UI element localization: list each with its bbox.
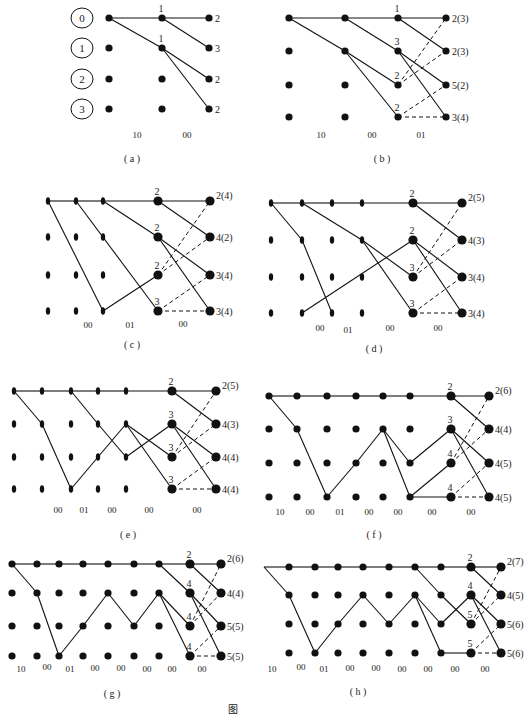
- path-metric: 2: [155, 260, 160, 271]
- received-bits: 00: [424, 664, 434, 674]
- survivor-branch: [134, 593, 159, 626]
- state-node: [330, 236, 334, 244]
- state-node: [484, 391, 493, 400]
- panel-caption: ( d ): [366, 343, 383, 355]
- path-metric: 2: [410, 225, 415, 236]
- state-node: [300, 273, 304, 281]
- received-bits: 00: [183, 130, 193, 140]
- state-node: [446, 458, 455, 467]
- candidate-branch: [158, 201, 210, 275]
- state-node: [124, 387, 128, 395]
- state-node: [153, 306, 162, 315]
- survivor-branch: [71, 391, 98, 424]
- state-node: [205, 44, 212, 51]
- state-node: [205, 14, 212, 21]
- state-node: [158, 44, 165, 51]
- state-node: [105, 105, 112, 112]
- state-node: [130, 560, 137, 567]
- state-node: [79, 589, 86, 596]
- end-metric-label: 2(5): [222, 380, 239, 392]
- end-metric-label: 4(2): [216, 232, 233, 244]
- trellis-figure: 01231123221000( a )13222(3)2(3)5(2)3(4)1…: [0, 0, 528, 716]
- path-metric: 2: [169, 376, 174, 387]
- state-node: [437, 649, 444, 656]
- survivor-branch: [172, 424, 216, 489]
- end-metric-label: 2: [215, 13, 220, 24]
- panel-c: 22232(4)4(2)3(4)3(4)000100( c ): [46, 186, 233, 351]
- state-node: [155, 622, 162, 629]
- state-node: [153, 196, 162, 205]
- state-node: [406, 425, 413, 432]
- state-node: [104, 622, 111, 629]
- state-node: [205, 196, 214, 205]
- path-metric: 4: [448, 448, 453, 459]
- state-node: [394, 47, 401, 54]
- candidate-branch: [190, 626, 221, 656]
- state-node: [394, 14, 401, 21]
- panel-caption: ( h ): [350, 686, 367, 698]
- survivor-branch: [103, 201, 158, 237]
- state-node: [300, 199, 304, 207]
- survivor-branch: [12, 564, 37, 593]
- state-node: [385, 620, 392, 627]
- state-node: [359, 649, 366, 656]
- survivor-branch: [126, 424, 172, 489]
- survivor-branch: [363, 595, 389, 624]
- state-node: [55, 622, 62, 629]
- state-node: [394, 81, 401, 88]
- received-bits: 01: [336, 507, 345, 517]
- state-node: [153, 232, 162, 241]
- state-node: [55, 652, 62, 659]
- survivor-branch: [345, 18, 398, 51]
- survivor-branch: [345, 51, 398, 117]
- state-node: [185, 588, 194, 597]
- state-node: [466, 648, 475, 657]
- panel-caption: ( b ): [374, 153, 391, 165]
- received-bits: 00: [43, 662, 53, 672]
- path-metric: 2: [395, 102, 400, 113]
- panel-caption: ( g ): [104, 688, 121, 700]
- state-node: [269, 199, 273, 207]
- state-node: [69, 485, 73, 493]
- state-node: [185, 559, 194, 568]
- survivor-branch: [415, 595, 441, 653]
- end-metric-label: 5(6): [507, 648, 524, 660]
- panel-e: 23332(5)4(3)4(4)4(4)0001000000( e ): [12, 376, 239, 541]
- state-node: [8, 560, 15, 567]
- state-node: [101, 307, 105, 315]
- state-node: [105, 14, 112, 21]
- received-bits: 01: [80, 505, 89, 515]
- state-node: [442, 81, 449, 88]
- state-node: [104, 652, 111, 659]
- state-node: [379, 425, 386, 432]
- path-metric: 1: [159, 33, 164, 44]
- survivor-branch: [162, 18, 209, 48]
- state-node: [385, 563, 392, 570]
- received-bits: 00: [91, 663, 101, 673]
- end-metric-label: 2: [215, 74, 220, 85]
- panel-f: 23442(6)4(4)4(5)4(5)10000100000000( f ): [265, 381, 511, 541]
- end-metric-label: 3(4): [452, 112, 469, 124]
- state-node: [265, 425, 272, 432]
- received-bits: 00: [54, 505, 64, 515]
- received-bits: 10: [17, 664, 27, 674]
- state-node: [12, 453, 16, 461]
- state-node: [408, 308, 417, 317]
- state-node: [323, 425, 330, 432]
- state-node: [334, 649, 341, 656]
- path-metric: 2: [155, 222, 160, 233]
- path-metric: 2: [410, 188, 415, 199]
- state-label: 3: [79, 103, 85, 115]
- state-node: [153, 270, 162, 279]
- survivor-branch: [315, 624, 338, 653]
- end-metric-label: 4(4): [222, 484, 239, 496]
- end-metric-label: 4(3): [222, 419, 239, 431]
- state-node: [411, 563, 418, 570]
- state-node: [300, 309, 304, 317]
- received-bits: 00: [306, 507, 316, 517]
- state-node: [46, 197, 50, 205]
- state-node: [466, 590, 475, 599]
- state-node: [124, 453, 128, 461]
- state-node: [359, 620, 366, 627]
- state-node: [46, 233, 50, 241]
